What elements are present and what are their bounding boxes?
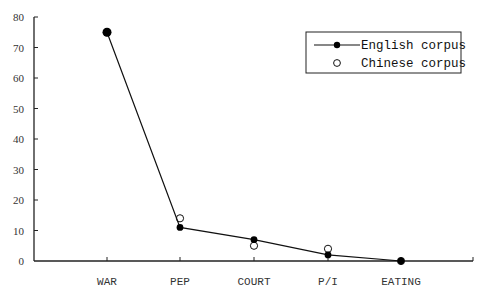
y-tick-label: 20 <box>13 194 25 206</box>
english-data-point <box>251 236 258 243</box>
legend: English corpus Chinese corpus <box>306 32 466 73</box>
x-category-label: COURT <box>237 276 270 288</box>
y-tick-label: 0 <box>19 255 25 267</box>
legend-label-english: English corpus <box>361 39 466 53</box>
legend-label-chinese: Chinese corpus <box>361 57 466 71</box>
y-tick-label: 40 <box>13 133 25 145</box>
y-tick-label: 30 <box>13 164 25 176</box>
x-category-label: WAR <box>97 276 117 288</box>
y-tick-label: 50 <box>13 103 25 115</box>
filled-marker-icon <box>334 42 340 48</box>
x-category-label: PEP <box>170 276 190 288</box>
y-tick-label: 80 <box>13 11 25 23</box>
chinese-data-point <box>250 242 257 249</box>
english-data-point <box>325 252 332 259</box>
x-category-label: EATING <box>381 276 421 288</box>
english-data-point <box>177 224 184 231</box>
open-marker-icon <box>334 60 341 67</box>
english-data-point <box>398 258 405 265</box>
x-category-label: P/I <box>318 276 338 288</box>
y-axis: 01020304050607080 <box>13 11 38 267</box>
line-chart: 01020304050607080 WARPEPCOURTP/IEATING E… <box>0 0 488 302</box>
y-tick-label: 60 <box>13 72 25 84</box>
x-axis: WARPEPCOURTP/IEATING <box>34 257 473 288</box>
english-data-point <box>103 28 112 37</box>
chinese-data-point <box>324 245 331 252</box>
y-tick-label: 70 <box>13 42 25 54</box>
y-tick-label: 10 <box>13 225 25 237</box>
